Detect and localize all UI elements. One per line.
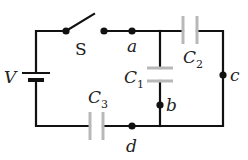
capacitor-c3-icon	[90, 112, 103, 140]
c1-label: C 1	[124, 67, 144, 91]
svg-text:C: C	[183, 47, 196, 67]
node-c-label: c	[230, 65, 240, 85]
battery-label: V	[4, 67, 18, 87]
switch-label: S	[75, 39, 87, 59]
circuit-diagram: V S a b c d C 1 C 2 C 3	[0, 0, 248, 160]
capacitor-c2-icon	[183, 16, 197, 44]
capacitor-c1-icon	[147, 68, 173, 81]
svg-text:C: C	[124, 67, 137, 87]
svg-text:3: 3	[101, 98, 108, 111]
node-b-label: b	[166, 95, 177, 115]
switch-contact-right	[100, 27, 107, 34]
node-d-dot	[128, 122, 135, 129]
node-c-dot	[219, 71, 226, 78]
wire-left-top	[36, 31, 66, 73]
wire-right	[103, 31, 223, 126]
switch-contact-left	[62, 27, 69, 34]
wire-left-bottom	[36, 80, 90, 126]
node-a-label: a	[127, 36, 137, 56]
node-d-label: d	[126, 136, 137, 156]
node-a-dot	[128, 27, 135, 34]
c2-label: C 2	[183, 47, 203, 71]
svg-text:2: 2	[196, 58, 203, 71]
c3-label: C 3	[88, 87, 108, 111]
node-b-dot	[156, 101, 163, 108]
switch-lever	[66, 14, 94, 31]
svg-text:C: C	[88, 87, 101, 107]
svg-text:1: 1	[137, 78, 144, 91]
